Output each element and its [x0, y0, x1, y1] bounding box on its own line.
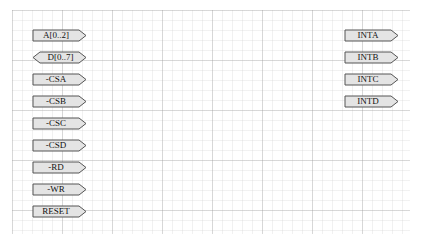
port-label: -RD	[33, 162, 79, 173]
port-intc[interactable]: INTC	[345, 74, 399, 85]
port-csa[interactable]: -CSA	[33, 74, 87, 85]
port-label: D[0..7]	[40, 52, 81, 63]
port-csd[interactable]: -CSD	[33, 140, 87, 151]
port-label: INTD	[345, 96, 391, 107]
port-label: INTC	[345, 74, 391, 85]
port-label: -WR	[33, 184, 79, 195]
port-label: -CSB	[33, 96, 79, 107]
port-a-0-2[interactable]: A[0..2]	[33, 30, 87, 41]
port-csb[interactable]: -CSB	[33, 96, 87, 107]
port-label: INTA	[345, 30, 391, 41]
port-csc[interactable]: -CSC	[33, 118, 87, 129]
port-label: -CSC	[33, 118, 79, 129]
port-rd[interactable]: -RD	[33, 162, 87, 173]
port-label: A[0..2]	[33, 30, 79, 41]
port-wr[interactable]: -WR	[33, 184, 87, 195]
port-intb[interactable]: INTB	[345, 52, 399, 63]
port-label: -CSA	[33, 74, 79, 85]
port-d-0-7[interactable]: D[0..7]	[33, 52, 87, 63]
port-intd[interactable]: INTD	[345, 96, 399, 107]
port-label: RESET	[33, 206, 79, 217]
port-reset[interactable]: RESET	[33, 206, 87, 217]
port-label: -CSD	[33, 140, 79, 151]
port-label: INTB	[345, 52, 391, 63]
port-inta[interactable]: INTA	[345, 30, 399, 41]
